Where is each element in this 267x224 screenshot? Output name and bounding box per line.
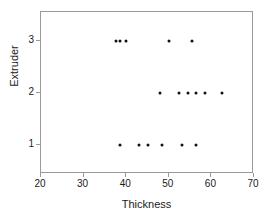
data-point [159,92,162,95]
data-point [146,144,149,147]
data-point [118,39,121,42]
y-axis-tick-label: 3 [22,34,34,46]
x-axis-tick-label: 40 [110,178,140,190]
data-point [186,92,189,95]
y-axis-tick-label: 2 [22,86,34,98]
data-point [204,92,207,95]
x-axis-tick [253,173,254,177]
x-axis-title: Thickness [0,198,267,210]
x-axis-tick [125,173,126,177]
data-points-layer [41,12,252,172]
y-axis-tick-label: 1 [22,138,34,150]
y-axis-tick [36,144,40,145]
data-point [191,39,194,42]
x-axis-tick [210,173,211,177]
data-point [161,144,164,147]
data-point [180,144,183,147]
data-point [195,92,198,95]
x-axis-tick [83,173,84,177]
x-axis-tick-label: 30 [68,178,98,190]
data-point [137,144,140,147]
y-axis-tick [36,40,40,41]
data-point [114,39,117,42]
data-point [125,39,128,42]
x-axis-tick-label: 60 [195,178,225,190]
x-axis-tick-label: 50 [153,178,183,190]
scatter-chart-figure: 203040506070 123 Thickness Extruder [0,0,267,224]
data-point [195,144,198,147]
data-point [167,39,170,42]
data-point [118,144,121,147]
y-axis-tick [36,92,40,93]
plot-area-frame [40,11,253,173]
data-point [178,92,181,95]
x-axis-tick [40,173,41,177]
y-axis-title: Extruder [8,26,20,106]
x-axis-tick-label: 70 [238,178,267,190]
data-point [221,92,224,95]
x-axis-tick-label: 20 [25,178,55,190]
x-axis-tick [168,173,169,177]
